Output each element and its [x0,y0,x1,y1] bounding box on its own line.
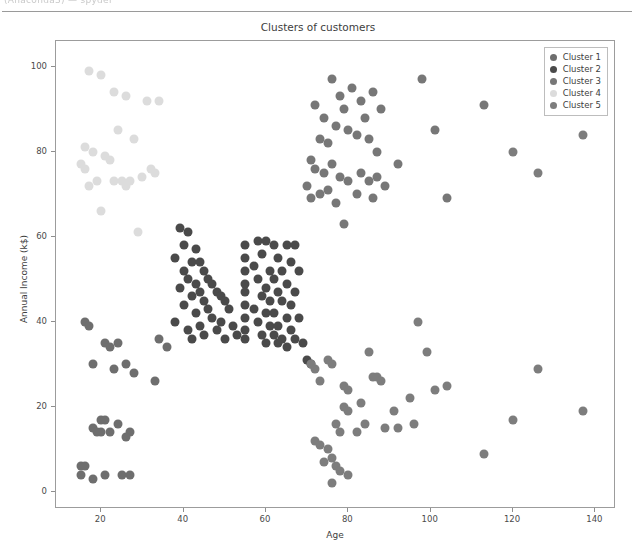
y-tick-mark [51,66,55,67]
scatter-point [89,147,98,156]
scatter-point [241,334,250,343]
scatter-point [299,339,308,348]
scatter-point [319,168,328,177]
scatter-point [509,147,518,156]
scatter-point [282,279,291,288]
scatter-point [352,130,361,139]
legend-item-2[interactable]: Cluster 2 [550,63,601,75]
scatter-point [249,262,258,271]
scatter-point [480,100,489,109]
scatter-point [192,245,201,254]
scatter-point [336,92,345,101]
scatter-point [282,313,291,322]
scatter-point [393,424,402,433]
scatter-point [443,194,452,203]
chart-legend[interactable]: Cluster 1Cluster 2Cluster 3Cluster 4Clus… [544,47,608,116]
legend-marker-icon [550,54,557,61]
scatter-point [253,317,262,326]
scatter-point [142,96,151,105]
scatter-point [130,134,139,143]
x-tick-label: 60 [260,514,271,524]
scatter-point [430,385,439,394]
scatter-point [76,470,85,479]
scatter-point [113,126,122,135]
scatter-point [89,360,98,369]
scatter-point [315,377,324,386]
x-tick-label: 40 [177,514,188,524]
scatter-point [364,347,373,356]
scatter-point [356,398,365,407]
y-tick-mark [51,406,55,407]
legend-marker-icon [550,102,557,109]
scatter-point [122,181,131,190]
y-tick-mark [51,321,55,322]
legend-item-4[interactable]: Cluster 4 [550,87,601,99]
scatter-point [154,334,163,343]
scatter-point [126,470,135,479]
scatter-point [150,377,159,386]
scatter-point [311,364,320,373]
scatter-point [101,470,110,479]
x-tick-label: 20 [95,514,106,524]
y-tick-mark [51,236,55,237]
scatter-point [84,181,93,190]
y-tick-label: 80 [21,146,47,156]
scatter-point [171,317,180,326]
legend-item-3[interactable]: Cluster 3 [550,75,601,87]
legend-marker-icon [550,66,557,73]
x-tick-label: 100 [422,514,438,524]
scatter-point [179,300,188,309]
scatter-point [336,428,345,437]
scatter-point [266,296,275,305]
scatter-point [344,177,353,186]
legend-label: Cluster 1 [563,52,601,62]
scatter-point [340,105,349,114]
scatter-point [418,75,427,84]
scatter-point [241,253,250,262]
scatter-point [163,343,172,352]
scatter-point [422,347,431,356]
scatter-point [360,113,369,122]
scan-artifact-bar: (Anaconda3) — spyder [0,0,636,14]
legend-marker-icon [550,90,557,97]
scatter-point [113,339,122,348]
scatter-point [97,207,106,216]
chart-figure: Clusters of customers Cluster 1Cluster 2… [0,14,636,558]
legend-label: Cluster 5 [563,100,601,110]
scatter-point [340,219,349,228]
scatter-point [80,164,89,173]
x-tick-mark [512,508,513,512]
scatter-point [348,83,357,92]
scatter-point [323,139,332,148]
scatter-point [253,275,262,284]
scan-ghost-text: (Anaconda3) — spyder [4,0,113,5]
scatter-point [352,190,361,199]
legend-item-5[interactable]: Cluster 5 [550,99,601,111]
scatter-point [356,168,365,177]
scatter-point [175,283,184,292]
scatter-point [278,266,287,275]
scatter-point [364,134,373,143]
scatter-point [84,322,93,331]
legend-item-1[interactable]: Cluster 1 [550,51,601,63]
scatter-point [109,364,118,373]
x-tick-mark [430,508,431,512]
scatter-point [393,160,402,169]
scatter-point [220,334,229,343]
scatter-point [130,368,139,377]
x-tick-mark [100,508,101,512]
x-tick-mark [594,508,595,512]
scatter-point [270,309,279,318]
scatter-point [344,407,353,416]
scatter-point [200,330,209,339]
scatter-point [579,407,588,416]
scatter-point [138,173,147,182]
horizontal-rule [2,11,632,12]
x-tick-label: 120 [504,514,520,524]
legend-label: Cluster 2 [563,64,601,74]
x-axis-label: Age [55,530,615,540]
scatter-point [146,164,155,173]
scatter-point [352,428,361,437]
scatter-point [406,394,415,403]
scatter-point [241,241,250,250]
